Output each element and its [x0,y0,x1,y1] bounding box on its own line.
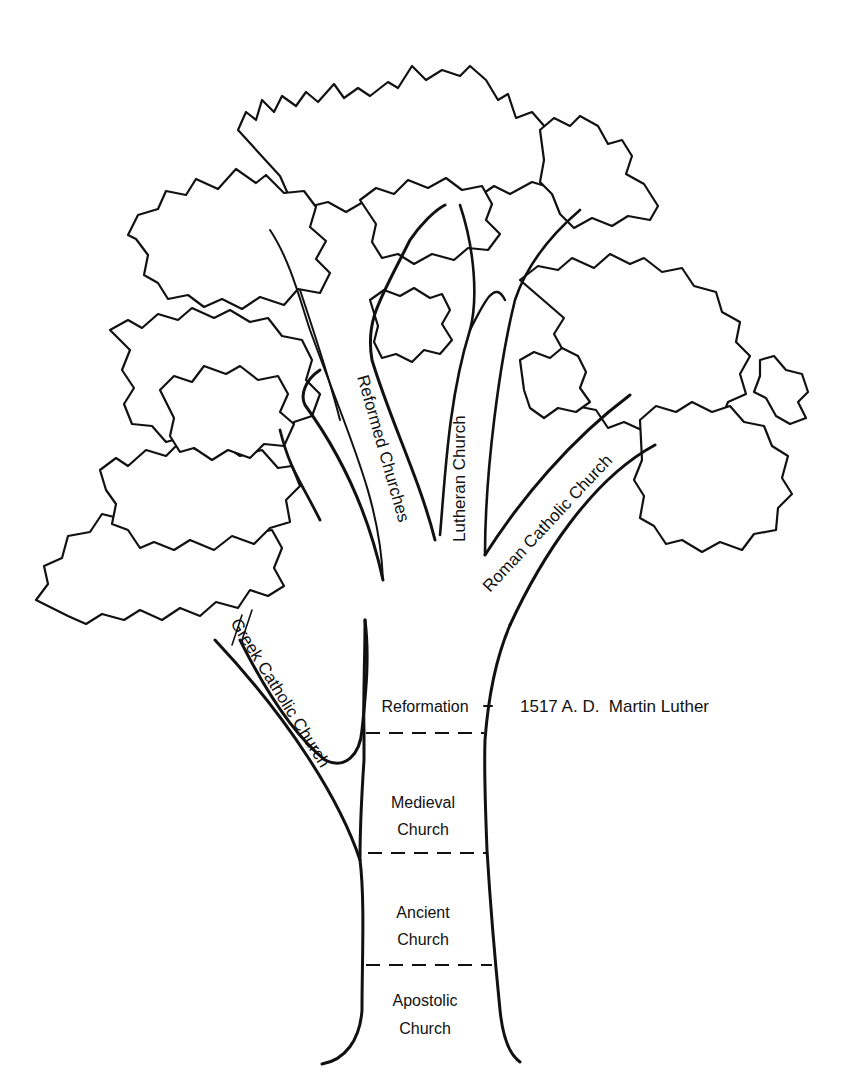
church-history-tree-diagram: Greek Catholic Church Reformed Churches … [0,0,842,1088]
era-medieval-line1: Medieval [391,794,455,811]
branch-label-greek-catholic: Greek Catholic Church [227,615,334,771]
reformation-annotation: 1517 A. D. Martin Luther [520,697,709,716]
era-ancient-line2: Church [397,931,449,948]
era-apostolic-line1: Apostolic [393,992,458,1009]
tree-foliage [36,66,808,624]
era-medieval-line2: Church [397,821,449,838]
branch-label-lutheran: Lutheran Church [450,415,469,542]
era-apostolic-line2: Church [399,1020,451,1037]
era-ancient-line1: Ancient [396,904,450,921]
trunk-era-labels: Reformation Medieval Church Ancient Chur… [381,698,468,1037]
era-reformation: Reformation [381,698,468,715]
